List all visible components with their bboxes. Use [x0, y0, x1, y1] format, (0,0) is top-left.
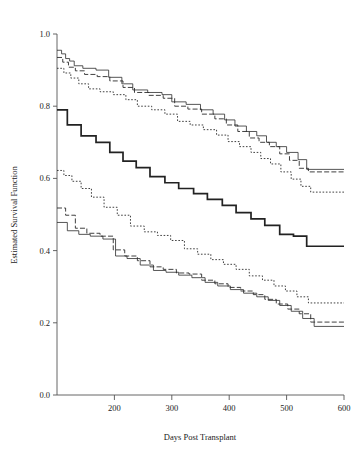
curve-upper-band-dotted	[57, 68, 344, 192]
x-axis-title: Days Post Transplant	[164, 432, 237, 442]
survival-curves	[57, 50, 344, 326]
y-tick-label: 0.0	[39, 390, 50, 400]
curve-upper-band-solid-thin	[57, 50, 344, 169]
y-tick-label: 0.6	[39, 173, 50, 183]
curve-upper-band-dashed	[57, 57, 344, 171]
curve-lower-band-dashed	[57, 208, 344, 322]
y-tick-label: 0.4	[39, 246, 50, 256]
y-axis-ticks: 0.00.20.40.60.81.0	[39, 29, 57, 400]
y-tick-label: 1.0	[39, 29, 50, 39]
x-tick-label: 300	[165, 403, 178, 413]
x-axis-ticks: 200300400500600	[108, 395, 350, 413]
chart-canvas: 0.00.20.40.60.81.0 200300400500600 Days …	[0, 0, 354, 457]
axes	[57, 34, 344, 395]
x-tick-label: 500	[280, 403, 293, 413]
survival-plot-figure: 0.00.20.40.60.81.0 200300400500600 Days …	[0, 0, 354, 457]
y-tick-label: 0.2	[39, 318, 50, 328]
x-tick-label: 400	[223, 403, 236, 413]
x-tick-label: 200	[108, 403, 121, 413]
y-tick-label: 0.8	[39, 101, 50, 111]
curve-center-estimate-solid-bold	[57, 110, 344, 246]
y-axis-title: Estimated Survival Function	[9, 166, 19, 264]
x-tick-label: 600	[338, 403, 351, 413]
